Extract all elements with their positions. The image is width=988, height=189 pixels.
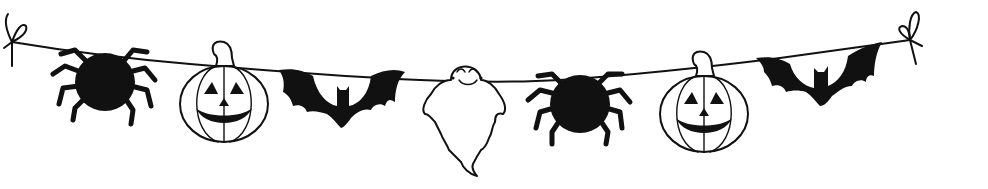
jack-o-lantern-icon: [180, 42, 268, 143]
bow-knot-icon-right: [899, 12, 922, 64]
jack-o-lantern-icon: [660, 52, 748, 153]
ghost-icon: [423, 67, 505, 177]
bow-knot-icon-left: [4, 14, 26, 66]
halloween-garland: [0, 0, 988, 189]
spider-icon: [53, 50, 155, 124]
spider-icon: [528, 74, 630, 144]
bat-icon: [279, 69, 405, 128]
